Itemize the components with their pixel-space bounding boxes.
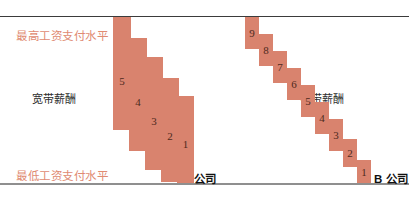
narrowband-band-4: 4 (315, 102, 329, 134)
narrowband-band-number-6: 6 (287, 79, 301, 90)
narrowband-band-3: 3 (329, 119, 343, 151)
narrowband-band-9: 9 (245, 17, 259, 49)
narrowband-band-number-4: 4 (315, 113, 329, 124)
narrowband-band-number-3: 3 (329, 130, 343, 141)
broadband-pay-label: 宽带薪酬 (32, 90, 76, 106)
narrowband-band-number-7: 7 (273, 62, 287, 73)
broadband-band-number-1: 1 (177, 139, 194, 150)
narrowband-band-number-9: 9 (245, 28, 259, 39)
narrowband-band-2: 2 (343, 139, 357, 167)
narrowband-band-8: 8 (259, 34, 273, 66)
salary-band-comparison-diagram: 最高工资支付水平 最低工资支付水平 宽带薪酬 窄带薪酬 A 公司 B 公司 54… (0, 0, 409, 198)
narrowband-band-5: 5 (301, 85, 315, 117)
narrowband-band-number-5: 5 (301, 96, 315, 107)
narrowband-band-7: 7 (273, 51, 287, 83)
min-pay-level-label: 最低工资支付水平 (16, 167, 108, 183)
narrowband-band-6: 6 (287, 68, 301, 100)
narrowband-band-number-2: 2 (343, 148, 357, 159)
narrowband-band-number-8: 8 (259, 45, 273, 56)
narrowband-band-1: 1 (357, 160, 371, 183)
max-pay-level-label: 最高工资支付水平 (16, 27, 108, 43)
broadband-band-1: 1 (177, 96, 194, 183)
max-pay-level-rule (0, 16, 409, 17)
narrowband-band-number-1: 1 (357, 166, 371, 177)
company-b-label: B 公司 (374, 170, 408, 186)
